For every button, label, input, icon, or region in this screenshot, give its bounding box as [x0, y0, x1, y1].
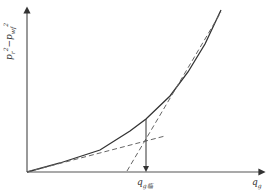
chart-svg [0, 0, 275, 194]
x-axis-label: qg [252, 178, 262, 189]
y-axis-label: pr2−pwf2 [3, 23, 16, 60]
critical-rate-label: qg临 [137, 178, 153, 189]
chart-figure: pr2−pwf2 qg qg临 [0, 0, 275, 194]
deliverability-curve [27, 10, 221, 172]
high-rate-tangent-line [127, 12, 221, 171]
